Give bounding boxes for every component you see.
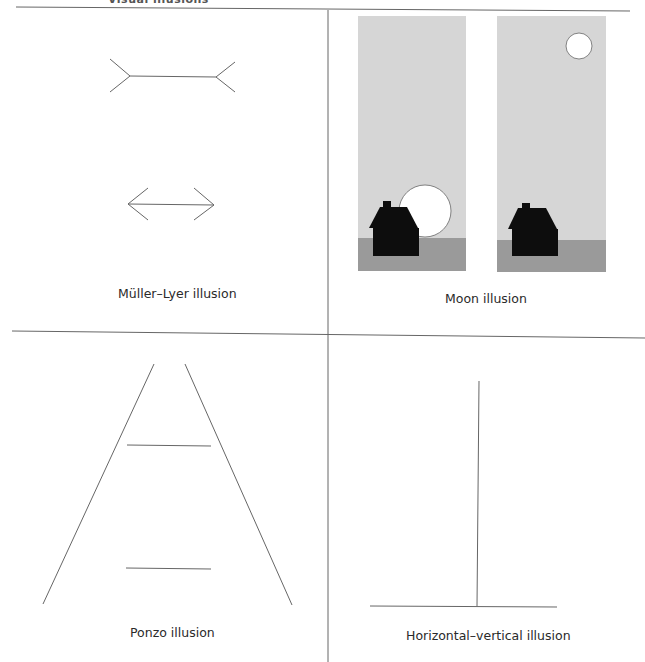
caption-horizontal-vertical: Horizontal–vertical illusion (406, 628, 571, 643)
top-divider (16, 7, 630, 11)
caption-ponzo: Ponzo illusion (130, 625, 215, 640)
caption-muller-lyer: Müller–Lyer illusion (118, 286, 237, 301)
ponzo-figure (43, 364, 292, 605)
horizontal-vertical-figure (370, 381, 557, 607)
illusions-figure (0, 0, 645, 662)
caption-moon: Moon illusion (445, 291, 527, 306)
moon-scene-right (497, 16, 606, 272)
muller-lyer-figure (110, 59, 235, 220)
moon-scene-left (358, 16, 466, 271)
